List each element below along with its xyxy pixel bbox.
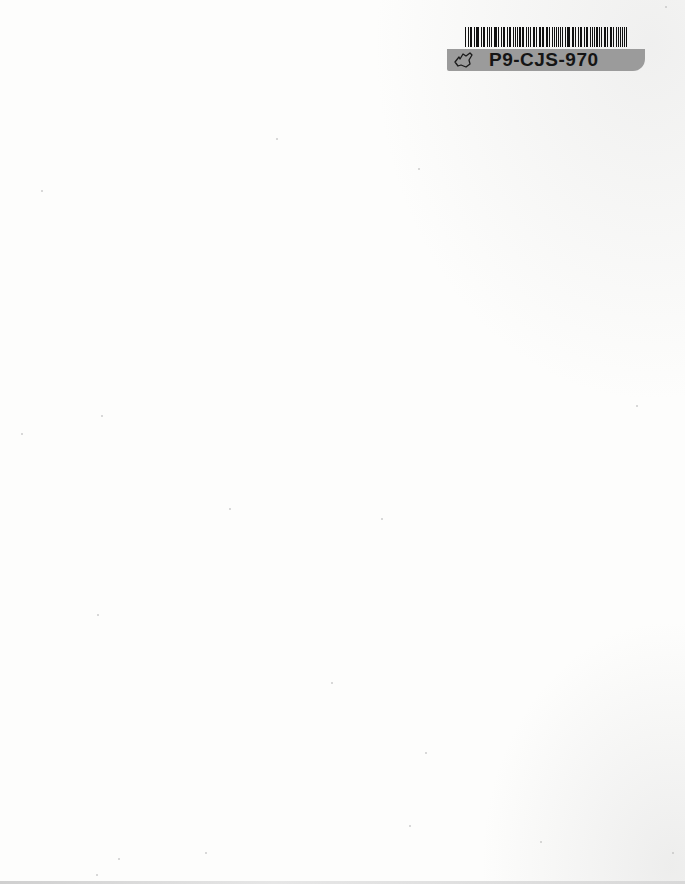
barcode-bar <box>605 27 606 47</box>
barcode-bar <box>554 27 555 47</box>
barcode-bar <box>484 27 485 47</box>
barcode-label: P9-CJS-970 <box>447 24 647 72</box>
barcode-bar <box>495 27 497 47</box>
barcode <box>465 27 629 47</box>
scan-speck <box>41 190 43 192</box>
barcode-bar <box>620 27 621 47</box>
barcode-bar <box>626 27 627 47</box>
scan-speck <box>205 852 207 854</box>
barcode-bar <box>547 27 548 47</box>
label-band: P9-CJS-970 <box>447 49 645 71</box>
scan-speck <box>665 6 667 8</box>
barcode-bar <box>578 27 579 47</box>
barcode-bar <box>517 27 518 47</box>
scan-speck <box>409 825 411 827</box>
scan-speck <box>418 168 420 170</box>
scan-speck <box>636 405 638 407</box>
barcode-bar <box>470 27 471 47</box>
barcode-bar <box>560 27 561 47</box>
scan-speck <box>540 841 542 843</box>
barcode-bar <box>607 27 608 47</box>
barcode-bar <box>565 27 566 47</box>
barcode-bar <box>568 27 570 47</box>
barcode-bar <box>474 27 475 47</box>
barcode-bar <box>498 27 499 47</box>
barcode-bar <box>536 27 537 47</box>
scan-speck <box>97 614 99 616</box>
scan-speck <box>118 858 120 860</box>
barcode-bar <box>523 27 524 47</box>
barcode-bar <box>573 27 574 47</box>
scan-speck <box>96 874 98 876</box>
barcode-bar <box>526 27 527 47</box>
barcode-bar <box>510 27 511 47</box>
barcode-bar <box>481 27 482 47</box>
barcode-bar <box>507 27 508 47</box>
barcode-bar <box>487 27 488 47</box>
scan-speck <box>276 138 278 140</box>
barcode-bar <box>522 27 523 47</box>
barcode-bar <box>534 27 535 47</box>
barcode-bar <box>489 27 490 47</box>
barcode-bar <box>556 27 557 47</box>
barcode-bar <box>599 27 600 47</box>
scanned-page: P9-CJS-970 <box>0 0 685 884</box>
scan-speck <box>21 433 23 435</box>
barcode-bar <box>604 27 605 47</box>
barcode-bar <box>515 27 516 47</box>
barcode-bar <box>580 27 581 47</box>
state-outline-icon <box>453 51 475 69</box>
barcode-bar <box>624 27 626 47</box>
barcode-bar <box>613 27 614 47</box>
label-code: P9-CJS-970 <box>489 49 599 71</box>
barcode-bar <box>513 27 514 47</box>
barcode-bar <box>468 27 469 47</box>
barcode-bar <box>575 27 576 47</box>
barcode-bar <box>592 27 593 47</box>
barcode-bar <box>530 27 531 47</box>
barcode-bar <box>546 27 547 47</box>
barcode-bar <box>586 27 587 47</box>
barcode-bar <box>528 27 529 47</box>
barcode-bar <box>622 27 623 47</box>
barcode-bar <box>509 27 510 47</box>
barcode-bar <box>483 27 484 47</box>
barcode-bar <box>471 27 472 47</box>
barcode-bar <box>491 27 492 47</box>
scan-speck <box>672 852 674 854</box>
barcode-bar <box>476 27 477 47</box>
scan-speck <box>381 518 383 520</box>
barcode-bar <box>590 27 591 47</box>
barcode-bar <box>594 27 595 47</box>
barcode-bar <box>552 27 553 47</box>
barcode-bar <box>610 27 611 47</box>
barcode-bar <box>611 27 612 47</box>
scan-speck <box>331 682 333 684</box>
barcode-bar <box>558 27 559 47</box>
scan-speck <box>229 508 231 510</box>
scan-speck <box>425 752 427 754</box>
barcode-bar <box>503 27 504 47</box>
barcode-bar <box>549 27 550 47</box>
barcode-bar <box>616 27 617 47</box>
barcode-bar <box>572 27 573 47</box>
barcode-bar <box>465 27 466 47</box>
barcode-bar <box>567 27 568 47</box>
barcode-bar <box>543 27 544 47</box>
barcode-bar <box>539 27 541 47</box>
barcode-bar <box>584 27 585 47</box>
barcode-bar <box>581 27 582 47</box>
barcode-bar <box>504 27 505 47</box>
barcode-bar <box>596 27 598 47</box>
barcode-bar <box>533 27 534 47</box>
barcode-bar <box>501 27 502 47</box>
barcode-bar <box>601 27 602 47</box>
barcode-bar <box>542 27 543 47</box>
barcode-bar <box>562 27 563 47</box>
barcode-bar <box>477 27 479 47</box>
barcode-bar <box>587 27 588 47</box>
barcode-bar <box>494 27 495 47</box>
barcode-bar <box>519 27 521 47</box>
barcode-bar <box>618 27 619 47</box>
scan-speck <box>101 415 103 417</box>
